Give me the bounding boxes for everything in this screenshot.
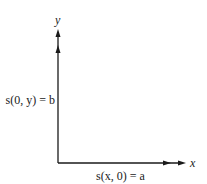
x-axis-label: x <box>190 157 195 169</box>
bottom-boundary-condition: s(x, 0) = a <box>96 170 145 182</box>
axes-figure <box>0 0 207 184</box>
x-axis-arrow-icon <box>178 161 186 166</box>
bottom-boundary-text: s(x, 0) = a <box>96 169 145 183</box>
x-axis-flow-arrow-icon <box>163 161 171 166</box>
y-axis-flow-arrow-icon <box>56 45 61 53</box>
y-axis-arrow-icon <box>56 29 61 37</box>
left-boundary-condition: s(0, y) = b <box>6 94 55 106</box>
y-axis-label: y <box>55 14 60 26</box>
left-boundary-text: s(0, y) = b <box>6 93 55 107</box>
